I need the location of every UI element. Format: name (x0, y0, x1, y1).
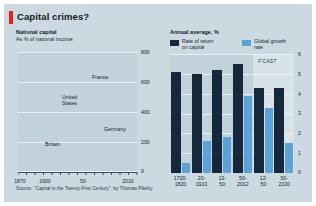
line-xtick-1900: 1900 (35, 178, 55, 184)
legend-swatch-blue (242, 40, 251, 46)
line-gridline-200 (18, 142, 137, 143)
legend-label-line2: on capital (182, 44, 204, 50)
bar-global-growth (223, 137, 231, 173)
bar-rate-of-return (171, 72, 181, 173)
bar-ytick-6: 6 (298, 51, 301, 57)
legend-label-rate-of-return: Rate of return on capital (182, 38, 214, 50)
bar-global-growth (182, 163, 190, 173)
bar-ytick-0: 0 (298, 169, 301, 175)
line-gridline-800 (18, 52, 137, 53)
bar-ytick-2: 2 (298, 130, 301, 136)
series-label-britain: Britain (45, 141, 60, 147)
bar-global-growth (244, 96, 252, 173)
legend-label-global-growth: Global growth rate (254, 38, 286, 50)
line-ytick-0: 0 (141, 168, 144, 174)
bar-rate-of-return (192, 74, 202, 173)
bar-gridline-5 (170, 74, 294, 75)
bar-global-growth (265, 108, 273, 173)
bar-xtick-line2: 1913 (196, 181, 208, 187)
line-chart-x-axis-ticks (18, 172, 138, 177)
line-ytick-200: 200 (141, 139, 150, 145)
line-ytick-400: 400 (141, 109, 150, 115)
bar-rate-of-return (254, 88, 264, 173)
bar-xtick-line2: 2100 (278, 181, 290, 187)
bar-xtick-line2: 50 (261, 181, 267, 187)
source-note: Source: “Capital in the Twenty-First Cen… (16, 186, 153, 191)
bar-chart-subtitle: Annual average, % (170, 29, 219, 35)
line-xtick-1870: 1870 (10, 178, 30, 184)
line-ytick-800: 800 (141, 49, 150, 55)
economist-red-tab (9, 11, 13, 24)
line-xtick-50: 50 (76, 178, 90, 184)
line-gridline-400 (18, 112, 137, 113)
forecast-label: F'CAST (258, 58, 277, 64)
series-label-united-states: United States (62, 94, 86, 106)
bar-global-growth (203, 141, 211, 173)
line-xtick-2010: 2010 (118, 178, 138, 184)
legend-label-line2: rate (254, 44, 263, 50)
bar-global-growth (285, 143, 293, 173)
line-gridline-600 (18, 82, 137, 83)
bar-rate-of-return (212, 70, 222, 173)
legend-label-line1: Global growth (254, 38, 286, 44)
bar-chart-plot: F'CAST (170, 54, 294, 173)
line-chart-subtitle: National capital (16, 29, 57, 35)
bar-gridline-6 (170, 54, 294, 55)
legend-label-line1: Rate of return (182, 38, 214, 44)
bar-rate-of-return (274, 88, 284, 173)
page-title: Capital crimes? (17, 11, 89, 22)
infographic-figure: Capital crimes? National capital As % of… (4, 4, 312, 202)
bar-ytick-5: 5 (298, 71, 301, 77)
bar-ytick-1: 1 (298, 150, 301, 156)
bar-xtick-line2: 50 (219, 181, 225, 187)
line-chart-plot: France United States Germany Britain (18, 52, 137, 172)
line-chart-subtitle-2: As % of national income (16, 36, 73, 42)
bar-xtick-50-2100: 50- 2100 (271, 175, 298, 187)
bar-rate-of-return (233, 64, 243, 173)
legend-swatch-dark (170, 40, 179, 46)
bar-xtick-line2: 2012 (237, 181, 249, 187)
bar-ytick-3: 3 (298, 110, 301, 116)
series-label-france: France (92, 74, 109, 80)
bar-ytick-4: 4 (298, 91, 301, 97)
bar-xtick-line2: 1820 (175, 181, 187, 187)
line-ytick-600: 600 (141, 79, 150, 85)
series-label-germany: Germany (104, 126, 126, 132)
